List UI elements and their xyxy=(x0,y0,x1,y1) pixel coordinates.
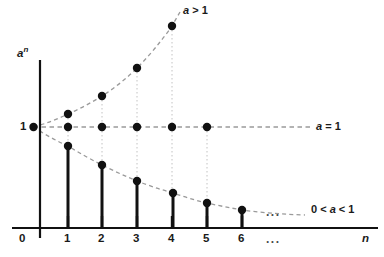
curve-label-a-between-0-and-1: 0 < a < 1 xyxy=(311,204,354,215)
y-axis-label-exponent: n xyxy=(23,45,28,54)
dot-lower-n4 xyxy=(169,189,177,197)
curve-label-lower-base: a xyxy=(330,203,336,215)
dot-middle-n3 xyxy=(133,123,141,131)
curve-a-between-0-and-1 xyxy=(34,127,306,215)
curve-a-greater-than-1 xyxy=(34,12,181,127)
x-axis-ellipsis: ... xyxy=(266,233,281,245)
x-tick-label-5: 5 xyxy=(203,233,209,245)
dot-upper-n1 xyxy=(64,110,72,118)
dot-upper-n4 xyxy=(168,22,176,30)
x-tick-label-6: 6 xyxy=(238,233,244,245)
x-tick-label-2: 2 xyxy=(98,233,104,245)
dots-lower-curve xyxy=(64,142,246,214)
stems xyxy=(68,147,242,228)
dot-upper-n3 xyxy=(133,64,141,72)
x-axis-origin-label: 0 xyxy=(19,233,25,245)
curve-label-middle-relation: = 1 xyxy=(325,120,341,132)
y-axis-value-one: 1 xyxy=(20,121,26,133)
curve-label-upper-relation: > 1 xyxy=(192,4,208,16)
dot-middle-n5 xyxy=(203,123,211,131)
dot-middle-n1 xyxy=(64,123,72,131)
dots-upper-curve xyxy=(29,22,176,131)
dot-lower-n6 xyxy=(238,206,246,214)
dot-lower-n2 xyxy=(98,161,106,169)
dot-lower-n3 xyxy=(133,177,141,185)
figure-canvas: an 1 0 1 2 3 4 5 6 ... ... n a > 1 a = 1… xyxy=(0,0,384,257)
x-axis-ticks xyxy=(68,216,242,228)
dot-middle-n4 xyxy=(168,123,176,131)
y-axis-label: an xyxy=(17,46,28,59)
dot-upper-n0 xyxy=(29,123,37,131)
curve-label-lower-suffix: < 1 xyxy=(339,203,355,215)
dot-middle-n2 xyxy=(98,123,106,131)
dot-upper-n2 xyxy=(98,92,106,100)
x-tick-label-3: 3 xyxy=(133,233,139,245)
guide-lines xyxy=(68,26,207,203)
curve-label-middle-base: a xyxy=(316,120,322,132)
x-axis-label: n xyxy=(362,233,369,245)
dot-lower-n5 xyxy=(203,199,211,207)
curve-label-a-equals-1: a = 1 xyxy=(316,121,341,132)
dot-lower-n1 xyxy=(64,142,72,150)
curve-label-a-greater-than-1: a > 1 xyxy=(183,5,208,16)
x-tick-label-4: 4 xyxy=(168,233,174,245)
x-axis-ellipsis-upper: ... xyxy=(266,206,281,218)
x-tick-label-1: 1 xyxy=(64,233,70,245)
curve-label-lower-prefix: 0 < xyxy=(311,203,327,215)
curve-label-upper-base: a xyxy=(183,4,189,16)
